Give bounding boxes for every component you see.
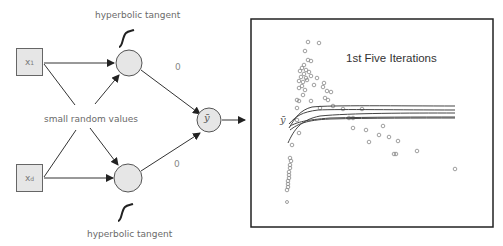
- plot-ybar-marker: ȳ: [280, 114, 286, 125]
- weights-label: small random values: [44, 114, 138, 124]
- activation-label-top: hyperbolic tangent: [95, 10, 180, 20]
- tanh-icon-bottom: [118, 204, 133, 221]
- output-node-label: ȳ: [204, 112, 210, 123]
- activation-label-bottom: hyperbolic tangent: [87, 229, 172, 239]
- input-node-x1: x1: [16, 48, 43, 76]
- input-node-xd: xd: [16, 164, 43, 192]
- hidden-node-2: [114, 164, 142, 192]
- edge-x1-h2: [90, 128, 118, 165]
- output-weight-top: 0: [175, 62, 181, 72]
- edge-h2-output: [141, 133, 200, 171]
- edge-xd-h1: [95, 75, 119, 104]
- input-subscript: 1: [30, 59, 34, 66]
- input-subscript: d: [30, 175, 34, 182]
- plot-frame: [251, 19, 493, 227]
- output-weight-bottom: 0: [174, 159, 180, 169]
- scatter-points: [285, 40, 457, 203]
- hidden-node-1: [116, 50, 142, 76]
- edge-h1-output: [141, 70, 200, 114]
- plot-title: 1st Five Iterations: [346, 52, 437, 64]
- tanh-icon-top: [119, 30, 134, 47]
- iteration-curves: [288, 106, 455, 143]
